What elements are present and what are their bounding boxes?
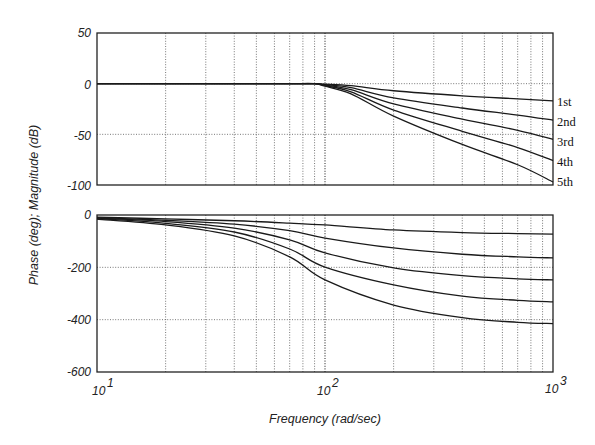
svg-text:1: 1 bbox=[107, 376, 114, 390]
svg-text:10: 10 bbox=[545, 382, 559, 396]
legend-2nd: 2nd bbox=[557, 115, 577, 129]
y-axis-label: Phase (deg); Magnitude (dB) bbox=[27, 125, 41, 286]
legend-4th: 4th bbox=[557, 155, 574, 169]
svg-text:2: 2 bbox=[331, 376, 339, 390]
mag-ytick-0: 0 bbox=[84, 78, 91, 92]
svg-text:10: 10 bbox=[92, 384, 106, 398]
mag-ytick-50: 50 bbox=[78, 26, 92, 40]
svg-text:10: 10 bbox=[317, 384, 331, 398]
mag-ytick-minus50: -50 bbox=[74, 129, 92, 143]
legend-1st: 1st bbox=[557, 95, 572, 109]
phase-ytick-minus600: -600 bbox=[67, 365, 91, 379]
bode-plot: 50 0 -50 -100 0 -200 -400 -600 10 1 10 2… bbox=[0, 0, 595, 445]
phase-curve-5th bbox=[97, 219, 553, 323]
phase-ytick-minus400: -400 bbox=[67, 313, 91, 327]
legend-5th: 5th bbox=[557, 175, 574, 189]
magnitude-curve-2nd bbox=[97, 84, 553, 121]
legend-3rd: 3rd bbox=[557, 135, 574, 149]
x-axis-label: Frequency (rad/sec) bbox=[269, 412, 381, 426]
svg-text:3: 3 bbox=[560, 374, 567, 388]
phase-ytick-0: 0 bbox=[84, 208, 91, 222]
xtick-10-3: 10 3 bbox=[545, 374, 567, 396]
mag-ytick-minus100: -100 bbox=[67, 179, 91, 193]
phase-ytick-minus200: -200 bbox=[67, 261, 91, 275]
xtick-10-2: 10 2 bbox=[317, 376, 339, 398]
magnitude-grid bbox=[97, 33, 553, 185]
xtick-10-1: 10 1 bbox=[92, 376, 114, 398]
